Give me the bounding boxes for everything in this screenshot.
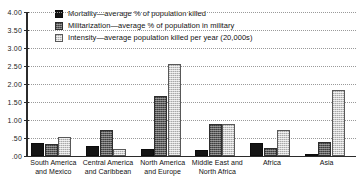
category-label-line2: and Caribbean: [81, 168, 136, 177]
y-axis-tick-label: 2.50: [0, 63, 22, 70]
x-axis-line: [26, 156, 356, 157]
category-label-line1: Asia: [299, 159, 354, 168]
category-label-line2: and Mexico: [26, 168, 81, 177]
bar-intensity[interactable]: [277, 130, 290, 156]
bar-intensity[interactable]: [58, 137, 71, 156]
bar-group: [86, 12, 126, 156]
category-label-line1: Central America: [81, 159, 136, 168]
y-axis-tick-label: 1.00: [0, 117, 22, 124]
bar-group: [305, 12, 345, 156]
y-axis-tick-label: 3.50: [0, 27, 22, 34]
bar-militarization[interactable]: [154, 96, 167, 156]
bar-intensity[interactable]: [113, 149, 126, 156]
category-label-line1: South America: [26, 159, 81, 168]
bar-intensity[interactable]: [168, 64, 181, 156]
bar-mortality[interactable]: [305, 154, 318, 156]
bar-mortality[interactable]: [195, 150, 208, 156]
bar-mortality[interactable]: [86, 146, 99, 156]
bar-mortality[interactable]: [31, 143, 44, 156]
y-axis-tick-label: 3.00: [0, 45, 22, 52]
x-axis-category-label: South Americaand Mexico: [26, 159, 81, 176]
bar-mortality[interactable]: [250, 143, 263, 156]
bar-mortality[interactable]: [141, 149, 154, 156]
y-axis-tick-label: .00: [0, 153, 22, 160]
bar-group: [31, 12, 71, 156]
bar-group: [250, 12, 290, 156]
category-label-line2: North Africa: [190, 168, 245, 177]
category-label-line1: North America: [135, 159, 190, 168]
y-axis-tick-label: 4.00: [0, 9, 22, 16]
category-label-line1: Middle East and: [190, 159, 245, 168]
bar-militarization[interactable]: [318, 142, 331, 156]
x-axis-category-label: Africa: [245, 159, 300, 168]
y-axis-tick-label: .50: [0, 135, 22, 142]
bar-intensity[interactable]: [332, 90, 345, 156]
x-axis-category-label: North Americaand Europe: [135, 159, 190, 176]
bar-militarization[interactable]: [45, 144, 58, 156]
category-label-line1: Africa: [245, 159, 300, 168]
category-label-line2: and Europe: [135, 168, 190, 177]
y-axis-tick-label: 2.00: [0, 81, 22, 88]
bar-militarization[interactable]: [264, 148, 277, 156]
bar-intensity[interactable]: [222, 124, 235, 156]
bar-chart: Mortality—average % of population killed…: [0, 0, 358, 186]
bar-group: [141, 12, 181, 156]
x-axis-category-label: Central Americaand Caribbean: [81, 159, 136, 176]
x-axis-category-label: Asia: [299, 159, 354, 168]
y-axis-tick-label: 1.50: [0, 99, 22, 106]
plot-area: [26, 12, 356, 156]
bar-militarization[interactable]: [100, 130, 113, 156]
bar-militarization[interactable]: [209, 124, 222, 156]
bar-group: [195, 12, 235, 156]
x-axis-category-label: Middle East andNorth Africa: [190, 159, 245, 176]
